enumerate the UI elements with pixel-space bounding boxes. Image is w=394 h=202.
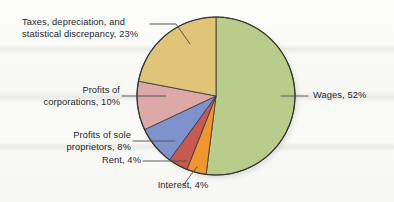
slice-label-proprietors-line1: Profits of sole bbox=[11, 130, 131, 142]
slice-label-wages: Wages, 52% bbox=[313, 90, 366, 102]
slice-label-taxes-line2: statistical discrepancy, 23% bbox=[22, 29, 138, 41]
slice-label-corporations-line1: Profits of bbox=[0, 85, 120, 97]
slice-label-interest: Interest, 4% bbox=[120, 180, 246, 192]
slice-label-taxes-line1: Taxes, depreciation, and bbox=[22, 17, 138, 29]
slice-label-proprietors-line2: proprietors, 8% bbox=[11, 142, 131, 154]
slice-label-proprietors: Profits of sole proprietors, 8% bbox=[11, 130, 131, 153]
slice-label-rent: Rent, 4% bbox=[41, 155, 141, 167]
slice-label-corporations-line2: corporations, 10% bbox=[0, 97, 120, 109]
slice-label-corporations: Profits of corporations, 10% bbox=[0, 85, 120, 108]
pie-chart-figure: Taxes, depreciation, and statistical dis… bbox=[0, 0, 394, 202]
slice-label-taxes: Taxes, depreciation, and statistical dis… bbox=[22, 17, 138, 40]
chart-area: Taxes, depreciation, and statistical dis… bbox=[0, 0, 394, 202]
